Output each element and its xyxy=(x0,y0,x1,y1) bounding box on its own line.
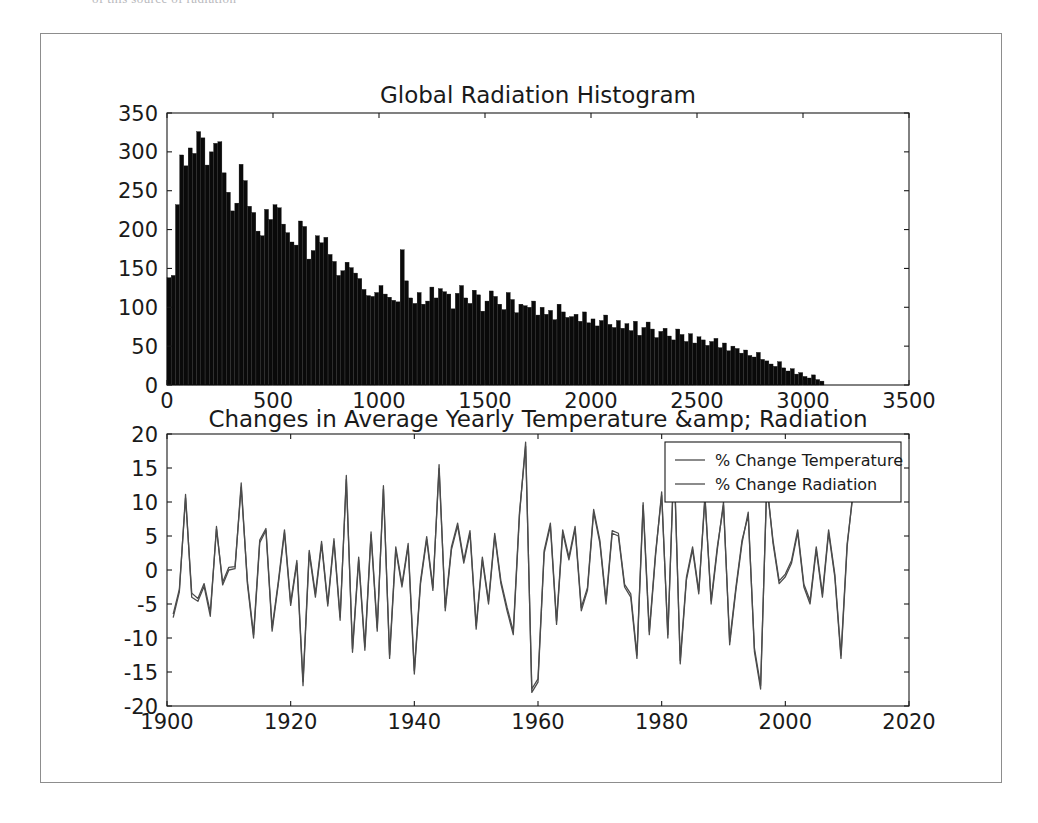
histogram-bar xyxy=(438,289,442,385)
y-tick-label: -15 xyxy=(124,661,158,685)
histogram-bar xyxy=(375,293,379,385)
histogram-bar xyxy=(714,338,718,385)
histogram-bar xyxy=(298,221,302,385)
histogram-bar xyxy=(727,351,731,385)
histogram-bar xyxy=(481,311,485,385)
histogram-bar xyxy=(599,321,603,386)
histogram-bar xyxy=(591,319,595,385)
histogram-bar xyxy=(769,364,773,385)
histogram-bar xyxy=(697,337,701,385)
histogram-bar xyxy=(413,303,417,385)
y-tick-label: -10 xyxy=(124,627,158,651)
histogram-bar xyxy=(672,340,676,385)
histogram-bar xyxy=(489,291,493,385)
histogram-bar xyxy=(816,380,820,385)
histogram-bar xyxy=(281,224,285,385)
histogram-bar xyxy=(332,261,336,385)
y-tick-label: 100 xyxy=(118,296,158,320)
histogram-bar xyxy=(608,324,612,385)
histogram-bar xyxy=(184,166,188,385)
histogram-bar xyxy=(659,331,663,385)
histogram-bar xyxy=(243,181,247,385)
x-tick-label: 1980 xyxy=(635,710,688,734)
histogram-bar xyxy=(256,231,260,385)
histogram-bar xyxy=(290,242,294,385)
y-tick-label: 200 xyxy=(118,218,158,242)
chart-legend: % Change Temperature% Change Radiation xyxy=(665,442,903,502)
y-tick-label: 20 xyxy=(131,423,158,447)
histogram-bar xyxy=(277,208,281,385)
legend-entry-label: % Change Temperature xyxy=(715,451,903,470)
histogram-bar xyxy=(205,165,209,385)
histogram-bar xyxy=(782,368,786,385)
histogram-bar xyxy=(693,343,697,385)
histogram-bar xyxy=(341,271,345,385)
histogram-bar xyxy=(807,378,811,385)
histogram-bar xyxy=(684,341,688,385)
legend-entry-label: % Change Radiation xyxy=(715,475,877,494)
histogram-bar xyxy=(506,293,510,385)
histogram-bar xyxy=(387,297,391,385)
histogram-bar xyxy=(235,203,239,385)
histogram-bar xyxy=(315,236,319,385)
histogram-bar xyxy=(532,301,536,385)
histogram-bar xyxy=(795,374,799,385)
y-tick-label: 0 xyxy=(145,374,158,398)
histogram-bar xyxy=(621,328,625,385)
histogram-bar xyxy=(472,290,476,385)
histogram-bar xyxy=(710,341,714,385)
histogram-bar xyxy=(218,142,222,385)
histogram-bar xyxy=(417,293,421,385)
histogram-bar xyxy=(443,292,447,385)
histogram-bar xyxy=(536,315,540,385)
line-chart-axes: 1900192019401960198020002020-20-15-10-50… xyxy=(124,406,936,734)
histogram-bar xyxy=(409,298,413,385)
histogram-bar xyxy=(811,375,815,385)
histogram-bar xyxy=(311,251,315,385)
histogram-bar xyxy=(477,295,481,385)
histogram-bar xyxy=(519,304,523,385)
histogram-bar xyxy=(222,173,226,385)
histogram-bar xyxy=(680,334,684,385)
histogram-bar xyxy=(544,314,548,385)
histogram-bar xyxy=(748,355,752,385)
histogram-bar xyxy=(790,369,794,385)
histogram-bar xyxy=(553,320,557,385)
histogram-bar xyxy=(616,321,620,386)
histogram-bar xyxy=(239,164,243,385)
histogram-title: Global Radiation Histogram xyxy=(380,82,696,108)
histogram-bar xyxy=(650,329,654,385)
histogram-bar xyxy=(655,338,659,385)
histogram-bar xyxy=(803,376,807,385)
histogram-bar xyxy=(337,275,341,385)
y-tick-label: 250 xyxy=(118,179,158,203)
histogram-bar xyxy=(248,206,252,385)
histogram-bar xyxy=(180,155,184,385)
histogram-bar xyxy=(642,327,646,385)
histogram-bar xyxy=(328,254,332,385)
histogram-bar xyxy=(510,300,514,385)
histogram-bar xyxy=(498,304,502,385)
histogram-bar xyxy=(400,250,404,385)
histogram-bar xyxy=(430,287,434,385)
y-tick-label: 150 xyxy=(118,257,158,281)
x-tick-label: 3500 xyxy=(882,389,935,413)
histogram-bar xyxy=(421,304,425,385)
y-tick-label: 5 xyxy=(145,525,158,549)
histogram-bar xyxy=(756,352,760,385)
histogram-bar xyxy=(379,286,383,385)
histogram-bar xyxy=(773,366,777,385)
histogram-bar xyxy=(324,237,328,385)
histogram-bar xyxy=(663,328,667,385)
histogram-bar xyxy=(718,348,722,385)
histogram-bar xyxy=(667,336,671,385)
histogram-bar xyxy=(362,289,366,385)
histogram-bar xyxy=(434,298,438,385)
histogram-bar xyxy=(761,359,765,385)
x-tick-label: 1920 xyxy=(264,710,317,734)
clipped-document-text: of this source of radiation xyxy=(92,0,236,7)
figure-canvas: 0500100015002000250030003500050100150200… xyxy=(41,34,1001,782)
y-tick-label: 50 xyxy=(131,335,158,359)
x-tick-label: 1960 xyxy=(511,710,564,734)
histogram-bar xyxy=(549,310,553,385)
